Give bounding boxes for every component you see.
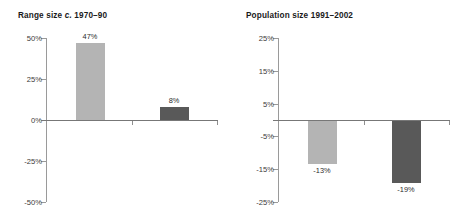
y-tick-label-right-1: 15% [259,67,274,76]
bar-label-left-1: 47% [83,32,98,41]
plot-area-right: 25% 15% 5% -5% -15% -25% [278,38,450,202]
zero-baseline-right [273,120,450,121]
y-tick-label-left-0: 50% [27,34,42,43]
bar-label-left-2: 8% [169,96,180,105]
category-tick-right-2 [449,121,450,125]
y-tick-label-right-4: -15% [256,165,274,174]
chart-title-right: Population size 1991–2002 [246,11,353,20]
plot-area-left: 50% 25% 0% -25% -50% [46,38,218,202]
chart-title-left-prefix: Range size [18,11,65,20]
y-tick-label-right-5: -25% [256,198,274,207]
y-tick-label-right-2: 5% [263,100,274,109]
category-tick-left-1 [132,121,133,125]
bar-right-1 [308,121,337,164]
chart-panel-population-size: Population size 1991–2002 25% 15% 5% -5% [230,0,460,217]
chart-title-right-prefix: Population size 1991–2002 [246,11,353,20]
y-tick-label-right-0: 25% [259,34,274,43]
chart-title-left: Range size c. 1970–90 [18,11,107,20]
chart-panel-range-size: Range size c. 1970–90 50% 25% 0% -25% [0,0,230,217]
y-tick-label-left-3: -25% [24,157,42,166]
category-tick-right-1 [364,121,365,125]
y-tick-label-left-1: 25% [27,75,42,84]
bar-right-2 [392,121,421,183]
bar-left-1 [76,43,105,120]
bar-left-2 [160,107,189,120]
y-tick-label-left-4: -50% [24,198,42,207]
category-tick-left-2 [217,121,218,125]
chart-title-left-suffix: 1970–90 [72,11,107,20]
figure-root: Range size c. 1970–90 50% 25% 0% -25% [0,0,460,217]
chart-title-left-italic: c. [65,11,72,20]
y-tick-label-right-3: -5% [260,132,274,141]
zero-baseline-left [41,120,218,121]
bar-label-right-1: -13% [313,166,330,175]
bar-label-right-2: -19% [397,185,414,194]
